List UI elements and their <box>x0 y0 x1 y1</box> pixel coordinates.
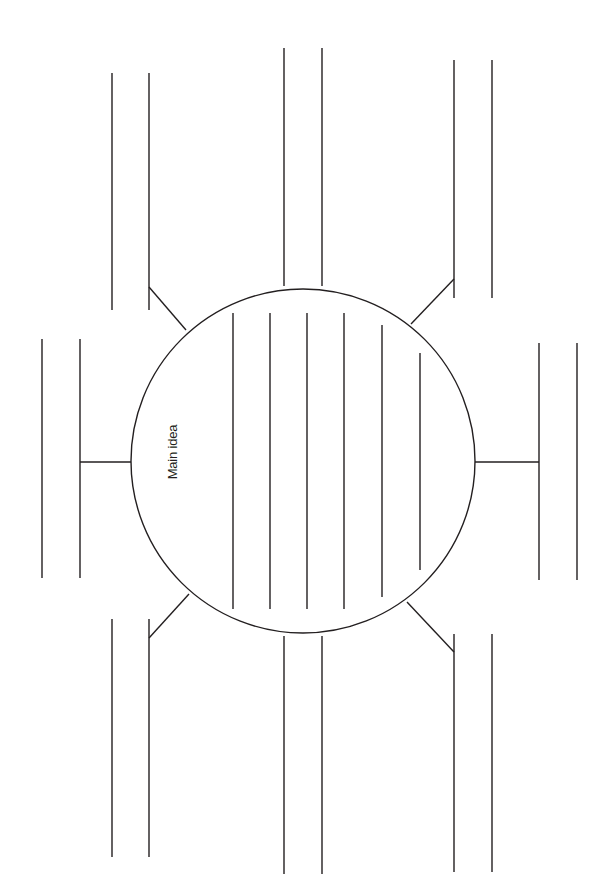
main-idea-writing-lines <box>233 313 420 609</box>
branch-connector <box>411 279 454 324</box>
branch-connector <box>407 602 454 652</box>
branch-top-left <box>112 73 186 330</box>
branch-top-right <box>411 60 492 324</box>
branch-connector <box>149 594 189 638</box>
branch-bottom-left <box>112 594 189 857</box>
branch-connector <box>149 287 186 330</box>
main-idea-label: Main idea <box>165 425 180 480</box>
branch-bottom-right <box>407 602 492 872</box>
branch-right <box>475 343 577 580</box>
branch-top <box>284 48 322 286</box>
main-idea-circle <box>131 289 475 633</box>
concept-web-diagram <box>0 0 613 884</box>
branch-bottom <box>284 636 322 874</box>
branch-left <box>42 339 131 578</box>
